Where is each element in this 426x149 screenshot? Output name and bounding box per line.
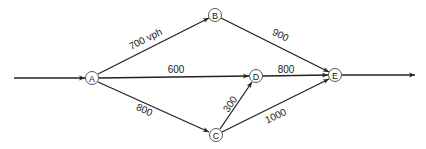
edge-c-to-e bbox=[222, 79, 329, 132]
edge-label-cd: 300 bbox=[221, 94, 240, 114]
node-d: D bbox=[250, 70, 263, 83]
edge-label-ab: 700 vph bbox=[127, 26, 164, 52]
edge-a-to-b bbox=[98, 18, 209, 74]
node-e-label: E bbox=[332, 71, 338, 81]
node-c: C bbox=[210, 129, 223, 142]
node-b-label: B bbox=[212, 11, 218, 21]
edge-label-be: 900 bbox=[271, 26, 291, 44]
edge-label-ad: 600 bbox=[168, 64, 185, 75]
node-a: A bbox=[86, 72, 99, 85]
node-b: B bbox=[209, 9, 222, 22]
network-diagram: 700 vph 600 800 900 800 300 1000 A B C D… bbox=[0, 0, 426, 149]
edge-label-ce: 1000 bbox=[263, 106, 288, 126]
edge-a-to-d bbox=[99, 76, 249, 78]
node-e: E bbox=[329, 69, 342, 82]
node-a-label: A bbox=[89, 74, 95, 84]
edge-label-de: 800 bbox=[278, 64, 295, 75]
node-d-label: D bbox=[253, 72, 260, 82]
node-c-label: C bbox=[213, 131, 220, 141]
edge-label-ac: 800 bbox=[135, 101, 155, 118]
edge-d-to-e bbox=[263, 75, 328, 76]
